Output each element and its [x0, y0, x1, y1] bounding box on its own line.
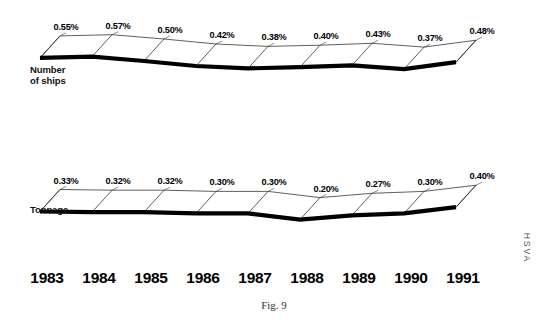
value-leader-line [216, 41, 222, 44]
data-point-value-label: 0.30% [417, 177, 442, 187]
data-point-value-label: 0.55% [53, 22, 78, 32]
series-name-label: Number [30, 64, 66, 75]
series-name-label: Tonnage [30, 204, 68, 215]
value-leader-line [164, 187, 170, 190]
ships-ribbon-top-face [40, 35, 476, 69]
year-tick-label: 1985 [134, 269, 168, 286]
data-point-value-label: 0.20% [313, 184, 338, 194]
year-tick-label: 1991 [446, 269, 480, 286]
data-point-value-label: 0.40% [313, 31, 338, 41]
value-leader-line [112, 187, 118, 190]
value-leader-line [268, 188, 274, 191]
value-leader-line [112, 32, 118, 35]
year-tick-label: 1988 [290, 269, 324, 286]
value-leader-line [164, 36, 170, 39]
chart-series-tonnage: 0.33%0.32%0.32%0.30%0.30%0.20%0.27%0.30%… [40, 171, 495, 219]
figure-container: 0.55%0.57%0.50%0.42%0.38%0.40%0.43%0.37%… [0, 0, 549, 334]
margin-imprint-text: HSVA [522, 233, 532, 264]
year-tick-label: 1990 [394, 269, 427, 286]
year-tick-label: 1989 [342, 269, 376, 286]
data-point-value-label: 0.33% [53, 176, 78, 186]
data-point-value-label: 0.30% [209, 177, 234, 187]
data-point-value-label: 0.43% [365, 29, 390, 39]
data-point-value-label: 0.37% [417, 33, 442, 43]
data-point-value-label: 0.48% [469, 26, 494, 36]
value-leader-line [60, 187, 66, 190]
year-tick-label: 1983 [30, 269, 64, 286]
data-point-value-label: 0.40% [469, 171, 494, 181]
year-tick-label: 1987 [238, 269, 271, 286]
year-tick-label: 1984 [82, 269, 116, 286]
data-point-value-label: 0.50% [157, 25, 182, 35]
value-leader-line [476, 37, 482, 40]
value-leader-line [476, 182, 482, 185]
data-point-value-label: 0.42% [209, 30, 234, 40]
series-name-label: of ships [30, 75, 66, 86]
year-tick-label: 1986 [186, 269, 220, 286]
data-point-value-label: 0.57% [105, 21, 130, 31]
data-point-value-label: 0.32% [157, 176, 182, 186]
ribbon-line-chart: 0.55%0.57%0.50%0.42%0.38%0.40%0.43%0.37%… [0, 0, 549, 334]
value-leader-line [216, 188, 222, 191]
figure-caption: Fig. 9 [261, 299, 287, 311]
margin-imprint: HSVA [522, 233, 532, 264]
data-point-value-label: 0.32% [105, 176, 130, 186]
data-point-value-label: 0.38% [261, 32, 286, 42]
data-point-value-label: 0.30% [261, 177, 286, 187]
chart-series-number-of-ships: 0.55%0.57%0.50%0.42%0.38%0.40%0.43%0.37%… [40, 21, 495, 69]
value-leader-line [372, 40, 378, 43]
x-axis-year-labels: 198319841985198619871988198919901991 [30, 269, 480, 286]
data-point-value-label: 0.27% [365, 179, 390, 189]
